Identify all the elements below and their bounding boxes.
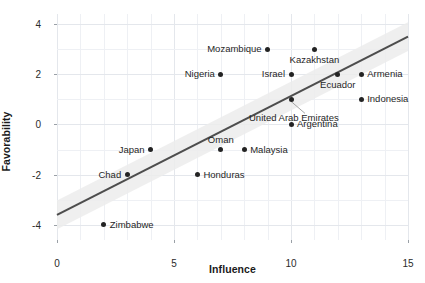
- data-point[interactable]: [125, 172, 130, 177]
- y-axis-title: Favorability: [0, 0, 18, 283]
- x-tick-mark: [174, 240, 175, 243]
- point-label: Malaysia: [250, 145, 288, 155]
- point-label: Argentina: [297, 120, 338, 130]
- x-tick-mark: [408, 240, 409, 243]
- data-point[interactable]: [359, 72, 364, 77]
- y-tick-mark: [54, 24, 57, 25]
- y-tick-mark: [54, 74, 57, 75]
- point-label: Armenia: [367, 70, 402, 80]
- y-tick-mark: [54, 124, 57, 125]
- x-axis-title: Influence: [57, 263, 408, 275]
- point-label: Honduras: [203, 170, 244, 180]
- point-label: Chad: [98, 170, 121, 180]
- x-tick-label: 5: [171, 258, 177, 269]
- y-tick-label: -2: [21, 169, 41, 180]
- data-point[interactable]: [289, 97, 294, 102]
- x-tick-mark: [291, 240, 292, 243]
- data-point[interactable]: [312, 47, 317, 52]
- data-point[interactable]: [359, 97, 364, 102]
- scatter-plot-figure: Favorability Influence 051015-4-2024 Moz…: [0, 0, 425, 283]
- point-label: Mozambique: [207, 44, 261, 54]
- y-tick-label: -4: [21, 219, 41, 230]
- point-label: Oman: [208, 134, 234, 144]
- plot-area: 051015-4-2024 MozambiqueKazakhstanNigeri…: [57, 14, 408, 240]
- x-tick-label: 15: [402, 258, 413, 269]
- data-point[interactable]: [242, 147, 247, 152]
- gridline-vertical: [408, 14, 409, 240]
- y-tick-label: 2: [21, 69, 41, 80]
- y-tick-mark: [54, 175, 57, 176]
- data-point[interactable]: [265, 47, 270, 52]
- point-label: Nigeria: [185, 70, 215, 80]
- x-tick-label: 0: [54, 258, 60, 269]
- point-label: Ecuador: [320, 80, 355, 90]
- data-point[interactable]: [289, 122, 294, 127]
- point-label: Japan: [119, 145, 145, 155]
- x-tick-label: 10: [285, 258, 296, 269]
- y-tick-label: 0: [21, 119, 41, 130]
- point-label: Israel: [262, 70, 285, 80]
- trendline: [57, 37, 408, 215]
- x-tick-mark: [57, 240, 58, 243]
- data-point[interactable]: [289, 72, 294, 77]
- y-tick-label: 4: [21, 19, 41, 30]
- point-label: Kazakhstan: [290, 55, 340, 65]
- y-tick-mark: [54, 225, 57, 226]
- point-label: Indonesia: [367, 95, 408, 105]
- point-label: Zimbabwe: [110, 220, 154, 230]
